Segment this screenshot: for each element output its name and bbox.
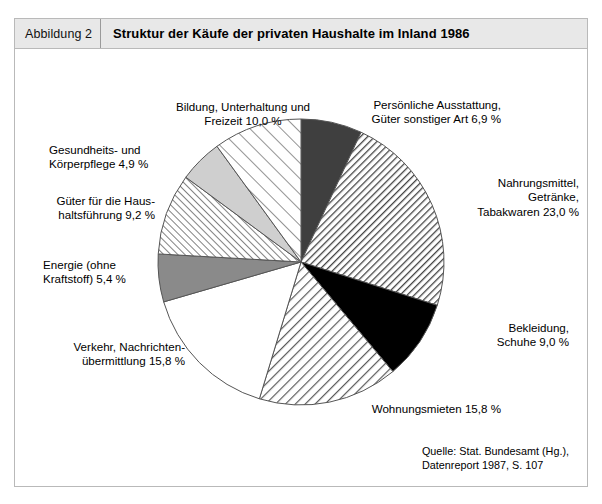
pie-label-energie: Energie (ohne Kraftstoff) 5,4 % <box>43 258 163 287</box>
pie-label-persoenliche-ausstattung: Persönliche Ausstattung, Güter sonstiger… <box>321 98 501 127</box>
pie-label-bekleidung-schuhe: Bekleidung, Schuhe 9,0 % <box>429 321 569 350</box>
pie-label-gesundheits-koerperpflege: Gesundheits- und Körperpflege 4,9 % <box>49 143 189 172</box>
pie-slice-group <box>158 119 444 405</box>
pie-label-gueter-haushaltsfuehrung: Güter für die Haus- haltsführung 9,2 % <box>23 194 155 223</box>
figure-index-label: Abbildung 2 <box>15 19 101 48</box>
pie-label-verkehr-nachrichtenuebermittlung: Verkehr, Nachrichten- übermittlung 15,8 … <box>39 340 185 369</box>
figure-header: Abbildung 2 Struktur der Käufe der priva… <box>15 19 587 49</box>
figure-title: Struktur der Käufe der privaten Haushalt… <box>101 19 587 48</box>
source-note: Quelle: Stat. Bundesamt (Hg.), Datenrepo… <box>422 445 569 472</box>
pie-label-wohnungsmieten: Wohnungsmieten 15,8 % <box>331 402 501 416</box>
pie-label-nahrungsmittel-getraenke-tabakwaren: Nahrungsmittel, Getränke, Tabakwaren 23,… <box>443 176 579 219</box>
pie-label-bildung-unterhaltung-freizeit: Bildung, Unterhaltung und Freizeit 10,0 … <box>143 100 343 129</box>
figure-frame: Abbildung 2 Struktur der Käufe der priva… <box>14 18 588 487</box>
chart-area: Bildung, Unterhaltung und Freizeit 10,0 … <box>15 50 587 486</box>
